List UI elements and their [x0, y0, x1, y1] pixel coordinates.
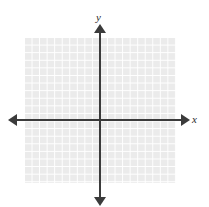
y-axis-up-arrow-icon	[94, 24, 106, 33]
x-axis-left-arrow-icon	[8, 114, 17, 126]
y-axis-line	[99, 32, 101, 200]
y-axis-down-arrow-icon	[94, 197, 106, 206]
x-axis-label: x	[192, 114, 197, 125]
y-axis-label: y	[96, 12, 101, 23]
coordinate-plane: y x	[0, 0, 209, 207]
x-axis-right-arrow-icon	[181, 114, 190, 126]
